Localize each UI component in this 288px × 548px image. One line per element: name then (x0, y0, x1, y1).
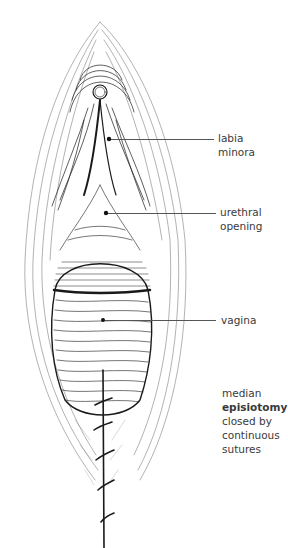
urethral-opening-leader (108, 213, 216, 214)
annotation-line: median (222, 386, 287, 400)
label-labia-minora: labia minora (218, 131, 255, 159)
label-vagina: vagina (221, 313, 256, 327)
label-line: vagina (221, 313, 256, 327)
annotation-episiotomy: median episiotomy closed by continuous s… (222, 386, 287, 456)
annotation-term-bold: episiotomy (222, 400, 287, 414)
annotation-line: closed by (222, 414, 287, 428)
labia-minora-leader (111, 139, 214, 140)
vulva-episiotomy-drawing (0, 0, 288, 548)
anatomical-illustration: labia minora urethral opening vagina med… (0, 0, 288, 548)
label-urethral-opening: urethral opening (220, 205, 262, 233)
label-line: urethral (220, 205, 262, 219)
label-line: opening (220, 219, 262, 233)
label-line: labia (218, 131, 255, 145)
annotation-line: continuous (222, 428, 287, 442)
vagina-leader (105, 320, 216, 321)
annotation-line: sutures (222, 442, 287, 456)
label-line: minora (218, 145, 255, 159)
